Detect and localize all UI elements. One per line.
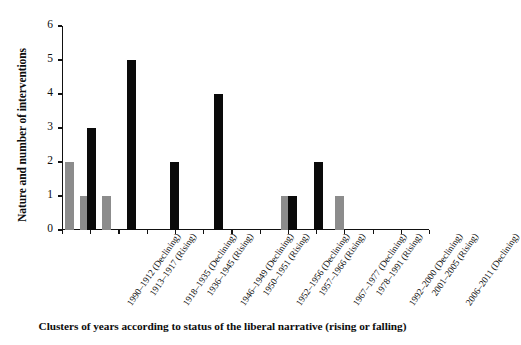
- y-tick-label: 0: [47, 224, 53, 236]
- y-axis-title: Nature and number of interventions: [16, 35, 28, 235]
- bar: [288, 196, 297, 230]
- x-tick: [429, 230, 430, 234]
- bar: [335, 196, 344, 230]
- y-tick: 2: [58, 161, 62, 162]
- bar: [87, 128, 96, 230]
- y-tick-label: 4: [47, 88, 53, 100]
- y-axis-line: [62, 26, 63, 230]
- y-tick: 1: [58, 195, 62, 196]
- y-tick: 3: [58, 127, 62, 128]
- y-tick-label: 3: [47, 122, 53, 134]
- bar: [127, 60, 136, 230]
- y-tick: 4: [58, 93, 62, 94]
- bar: [65, 162, 74, 230]
- bar: [214, 94, 223, 230]
- x-axis-title: Clusters of years according to status of…: [0, 320, 445, 332]
- bar: [314, 162, 323, 230]
- y-tick-label: 1: [47, 190, 53, 202]
- y-tick-label: 6: [47, 20, 53, 32]
- y-tick: 5: [58, 59, 62, 60]
- y-tick: 6: [58, 25, 62, 26]
- bar: [102, 196, 111, 230]
- x-axis-line: [62, 229, 429, 230]
- bar: [170, 162, 179, 230]
- plot-area: 0123456: [62, 26, 429, 230]
- x-tick-label-group: 1990–1912 (Declining)1913–1917 (Rising)1…: [62, 232, 429, 310]
- y-tick-label: 5: [47, 54, 53, 66]
- y-tick-label: 2: [47, 156, 53, 168]
